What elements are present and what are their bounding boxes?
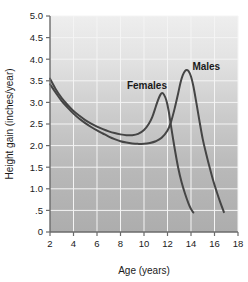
x-tick-label: 14 [186,238,197,249]
y-tick-label: .5 [35,205,43,216]
y-tick-label: 4.5 [30,32,43,43]
y-tick-label: 4.0 [30,54,43,65]
y-tick-label: 2.0 [30,140,43,151]
x-tick-label: 12 [162,238,173,249]
y-axis-title: Height gain (inches/year) [4,68,15,179]
x-axis-title: Age (years) [118,265,170,276]
y-tick-label: 3.0 [30,97,43,108]
y-tick-label: 1.0 [30,183,43,194]
y-tick-label: 3.5 [30,75,43,86]
y-tick-label: 5.0 [30,10,43,21]
x-tick-label: 8 [118,238,123,249]
chart-canvas: 0.51.01.52.02.53.03.54.04.55.0 246810121… [0,0,248,282]
x-tick-label: 2 [47,238,52,249]
x-tick-label: 10 [139,238,150,249]
series-label-males: Males [192,61,220,72]
x-tick-label: 4 [71,238,76,249]
x-tick-label: 6 [94,238,99,249]
height-gain-chart: 0.51.01.52.02.53.03.54.04.55.0 246810121… [0,0,248,282]
y-tick-label: 2.5 [30,118,43,129]
series-label-females: Females [127,80,167,91]
y-tick-label: 1.5 [30,162,43,173]
y-tick-label: 0 [38,226,43,237]
x-tick-label: 16 [209,238,220,249]
x-tick-label: 18 [233,238,244,249]
